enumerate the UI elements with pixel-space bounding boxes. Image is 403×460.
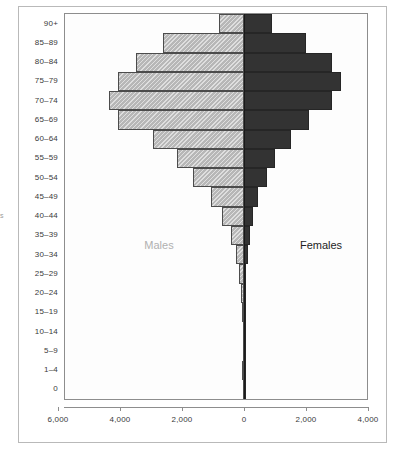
- y-axis-tick-label: 55–59: [35, 153, 58, 162]
- y-axis-tick-label: 15–19: [35, 307, 58, 316]
- bar-row: [65, 284, 367, 303]
- bar-male: [231, 226, 244, 245]
- bar-male: [222, 207, 244, 226]
- series-label-females: Females: [300, 239, 342, 251]
- x-axis-tick-mark: [120, 407, 121, 411]
- center-zero-axis-line: [244, 14, 245, 399]
- plot-area: Males Females: [64, 13, 368, 400]
- bar-female: [244, 187, 258, 206]
- y-axis-tick-label: 1–4: [44, 365, 58, 374]
- bar-female: [244, 130, 291, 149]
- bar-row: [65, 110, 367, 129]
- y-axis-tick-label: 90+: [44, 18, 58, 27]
- bar-row: [65, 53, 367, 72]
- bar-male: [177, 149, 244, 168]
- bar-row: [65, 303, 367, 322]
- bar-female: [244, 33, 306, 52]
- x-axis-tick-label: 2,000: [295, 415, 316, 424]
- bar-row: [65, 168, 367, 187]
- x-axis-tick-mark: [244, 407, 245, 411]
- bar-male: [136, 53, 245, 72]
- series-label-males: Males: [144, 239, 173, 251]
- population-pyramid-figure: s 90+85–8980–8475–7970–7465–6960–6455–59…: [0, 0, 403, 460]
- y-axis-tick-label: 25–29: [35, 268, 58, 277]
- x-axis-tick-label: 2,000: [171, 415, 192, 424]
- y-axis-tick-label: 40–44: [35, 211, 58, 220]
- x-axis-tick-label: 0: [242, 415, 247, 424]
- y-axis-tick-label: 0: [53, 384, 58, 393]
- bar-row: [65, 130, 367, 149]
- bar-row: [65, 72, 367, 91]
- x-axis-tick-label: 4,000: [109, 415, 130, 424]
- y-axis-tick-label: 35–39: [35, 230, 58, 239]
- bar-female: [244, 149, 275, 168]
- bar-row: [65, 361, 367, 380]
- bar-male: [193, 168, 244, 187]
- bar-female: [244, 53, 332, 72]
- bar-male: [163, 33, 244, 52]
- bar-male: [236, 245, 244, 264]
- bar-male: [219, 14, 244, 33]
- x-axis-tick-mark: [58, 407, 59, 411]
- y-axis-tick-label: 60–64: [35, 134, 58, 143]
- bar-row: [65, 149, 367, 168]
- bar-row: [65, 322, 367, 341]
- bar-row: [65, 187, 367, 206]
- bar-row: [65, 380, 367, 399]
- y-axis-tick-label: 30–34: [35, 249, 58, 258]
- x-axis-tick-mark: [368, 407, 369, 411]
- bar-male: [118, 72, 244, 91]
- bar-female: [244, 91, 332, 110]
- x-axis-line: [64, 407, 369, 408]
- bar-female: [244, 72, 341, 91]
- y-axis-tick-label: 5–9: [44, 345, 58, 354]
- x-axis-tick-mark: [306, 407, 307, 411]
- x-axis-tick-label: 6,000: [47, 415, 68, 424]
- y-axis-tick-label: 70–74: [35, 95, 58, 104]
- y-axis-tick-label: 65–69: [35, 114, 58, 123]
- bar-male: [118, 110, 244, 129]
- bar-male: [109, 91, 244, 110]
- bar-row: [65, 33, 367, 52]
- bar-female: [244, 168, 267, 187]
- bar-row: [65, 264, 367, 283]
- x-axis-tick-mark: [182, 407, 183, 411]
- y-axis-tick-label: 10–14: [35, 326, 58, 335]
- bar-female: [244, 207, 253, 226]
- bar-female: [244, 14, 272, 33]
- bar-row: [65, 207, 367, 226]
- y-axis-tick-label: 75–79: [35, 76, 58, 85]
- y-axis-tick-label: 80–84: [35, 57, 58, 66]
- bar-row: [65, 341, 367, 360]
- bar-male: [211, 187, 244, 206]
- y-axis-tick-label: 20–24: [35, 288, 58, 297]
- bar-row: [65, 14, 367, 33]
- bar-rows: [65, 14, 367, 399]
- edge-caption-fragment: s: [0, 212, 10, 238]
- y-axis-tick-label: 85–89: [35, 37, 58, 46]
- bar-row: [65, 91, 367, 110]
- y-axis-age-group-labels: 90+85–8980–8475–7970–7465–6960–6455–5950…: [18, 13, 64, 400]
- bar-female: [244, 110, 309, 129]
- x-axis-tick-label: 4,000: [357, 415, 378, 424]
- y-axis-tick-label: 45–49: [35, 191, 58, 200]
- bar-male: [153, 130, 244, 149]
- y-axis-tick-label: 50–54: [35, 172, 58, 181]
